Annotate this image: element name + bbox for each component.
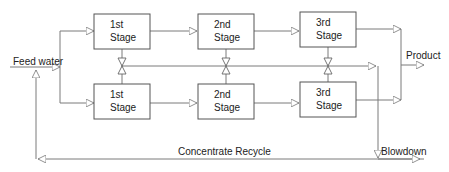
stage-number: 2nd xyxy=(214,88,240,101)
stage-label: Stage xyxy=(214,101,240,114)
stage-number: 1st xyxy=(110,18,136,31)
stage-label: Stage xyxy=(110,101,136,114)
stage-label: Stage xyxy=(316,99,342,112)
stage-box-lower-3: 3rd Stage xyxy=(316,86,342,112)
stage-box-upper-1: 1st Stage xyxy=(110,18,136,44)
product-label: Product xyxy=(406,50,440,61)
stage-number: 3rd xyxy=(316,16,342,29)
stage-label: Stage xyxy=(316,29,342,42)
stage-number: 3rd xyxy=(316,86,342,99)
feed-water-label: Feed water xyxy=(13,56,63,67)
stage-box-upper-2: 2nd Stage xyxy=(214,18,240,44)
stage-box-lower-1: 1st Stage xyxy=(110,88,136,114)
stage-box-upper-3: 3rd Stage xyxy=(316,16,342,42)
blowdown-label: Blowdown xyxy=(381,146,427,157)
stage-label: Stage xyxy=(110,31,136,44)
stage-number: 1st xyxy=(110,88,136,101)
process-diagram: 1st Stage 2nd Stage 3rd Stage 1st Stage … xyxy=(0,0,449,172)
stage-label: Stage xyxy=(214,31,240,44)
concentrate-recycle-label: Concentrate Recycle xyxy=(178,146,271,157)
stage-number: 2nd xyxy=(214,18,240,31)
stage-box-lower-2: 2nd Stage xyxy=(214,88,240,114)
